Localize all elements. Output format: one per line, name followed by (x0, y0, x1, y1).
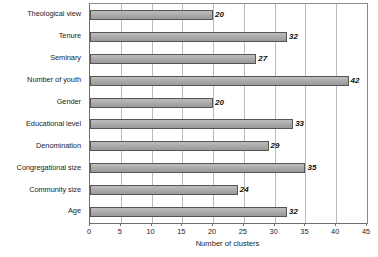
x-axis-tick (120, 223, 121, 226)
x-axis-tick-label: 5 (118, 228, 122, 235)
bar-value-label: 20 (215, 11, 224, 19)
category-label: Age (0, 200, 85, 222)
x-axis-tick (212, 223, 213, 226)
category-label: Congregational size (0, 156, 85, 178)
category-label: Gender (0, 91, 85, 113)
bar-value-label: 32 (289, 208, 298, 216)
bar: 27 (90, 54, 256, 64)
bar-chart: Theological view Tenure Seminary Number … (0, 0, 378, 257)
x-axis-tick-label: 35 (300, 228, 308, 235)
bar-row: 20 (90, 4, 367, 26)
x-axis-tick-label: 0 (87, 228, 91, 235)
bar-value-label: 24 (240, 186, 249, 194)
x-axis-tick (335, 223, 336, 226)
bar-value-label: 42 (351, 77, 360, 85)
x-axis-tick (181, 223, 182, 226)
x-axis-line (89, 223, 366, 224)
x-axis-tick-label: 45 (362, 228, 370, 235)
bar: 42 (90, 76, 349, 86)
bar: 35 (90, 163, 305, 173)
category-label: Number of youth (0, 69, 85, 91)
x-axis-tick-label: 40 (331, 228, 339, 235)
bar-rows: 20 32 27 42 20 (90, 4, 367, 223)
bar: 32 (90, 32, 287, 42)
x-axis-tick-label: 15 (177, 228, 185, 235)
x-axis: 051015202530354045 (89, 223, 366, 239)
x-axis-tick (366, 223, 367, 226)
bar-row: 27 (90, 48, 367, 70)
x-axis-tick (89, 223, 90, 226)
bar-row: 32 (90, 201, 367, 223)
x-axis-tick-label: 10 (146, 228, 154, 235)
bar-row: 35 (90, 157, 367, 179)
x-axis-tick (274, 223, 275, 226)
bar-row: 33 (90, 114, 367, 136)
category-label: Theological view (0, 3, 85, 25)
bar-value-label: 20 (215, 99, 224, 107)
bar-row: 24 (90, 179, 367, 201)
bar-row: 32 (90, 26, 367, 48)
x-axis-title: Number of clusters (89, 240, 366, 248)
bar: 20 (90, 98, 213, 108)
bar: 29 (90, 141, 269, 151)
bar-value-label: 32 (289, 33, 298, 41)
bar-value-label: 27 (258, 55, 267, 63)
bar: 33 (90, 119, 293, 129)
category-label: Educational level (0, 113, 85, 135)
bar: 32 (90, 207, 287, 217)
category-label: Seminary (0, 47, 85, 69)
category-label: Community size (0, 178, 85, 200)
plot-area: 20 32 27 42 20 (89, 3, 368, 224)
bar-value-label: 29 (271, 142, 280, 150)
bar-row: 29 (90, 135, 367, 157)
bar: 24 (90, 185, 238, 195)
bar-row: 20 (90, 92, 367, 114)
x-axis-tick-label: 20 (208, 228, 216, 235)
x-axis-tick-label: 30 (270, 228, 278, 235)
x-axis-tick (151, 223, 152, 226)
bar-value-label: 33 (295, 120, 304, 128)
x-axis-tick (304, 223, 305, 226)
bar-row: 42 (90, 70, 367, 92)
bar-value-label: 35 (307, 164, 316, 172)
bar: 20 (90, 10, 213, 20)
category-label: Tenure (0, 25, 85, 47)
category-axis-labels: Theological view Tenure Seminary Number … (0, 3, 85, 222)
category-label: Denomination (0, 134, 85, 156)
x-axis-tick (243, 223, 244, 226)
x-axis-tick-label: 25 (239, 228, 247, 235)
